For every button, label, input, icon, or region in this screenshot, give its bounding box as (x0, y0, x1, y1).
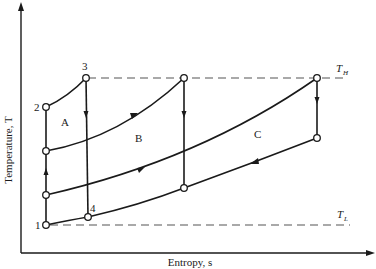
state-point-1 (43, 222, 50, 229)
th-label-main: T (336, 62, 343, 74)
state-point-th (314, 75, 321, 82)
tl-label: T L (337, 208, 348, 223)
curve-b-top (46, 78, 184, 151)
arrow-down-icon (315, 97, 320, 104)
region-label-b: B (135, 132, 142, 144)
y-axis-arrow-icon (18, 2, 24, 11)
state-point-2 (43, 104, 50, 111)
arrow-down-icon (182, 111, 187, 118)
point-label-3: 3 (82, 60, 88, 72)
point-label-4: 4 (90, 202, 96, 214)
tl-label-main: T (337, 208, 344, 220)
axes (18, 2, 375, 256)
th-label: T H (336, 62, 349, 77)
state-point-b-left (43, 148, 50, 155)
arrow-right-icon (137, 167, 145, 173)
region-label-c: C (254, 128, 261, 140)
x-axis-arrow-icon (366, 250, 375, 256)
ts-diagram: Temperature, T Entropy, s T H T L 1 (0, 0, 376, 269)
region-label-a: A (61, 116, 69, 128)
x-axis-label: Entropy, s (168, 256, 213, 268)
state-point-b-top (181, 75, 188, 82)
expansion-line-3-4 (86, 78, 88, 217)
state-point-b-bottom (181, 185, 188, 192)
arrow-down-icon (84, 111, 89, 118)
state-point-4 (85, 214, 92, 221)
arrow-up-icon (44, 168, 49, 175)
state-point-c-left (43, 192, 50, 199)
th-label-sub: H (342, 69, 349, 77)
state-point-3 (83, 75, 90, 82)
state-point-c-right (314, 135, 321, 142)
arrow-left-icon (250, 158, 259, 164)
curve-2-3 (46, 78, 86, 107)
point-label-2: 2 (34, 101, 40, 113)
point-label-1: 1 (35, 219, 41, 231)
y-axis-label: Temperature, T (2, 116, 14, 184)
tl-label-sub: L (343, 215, 348, 223)
